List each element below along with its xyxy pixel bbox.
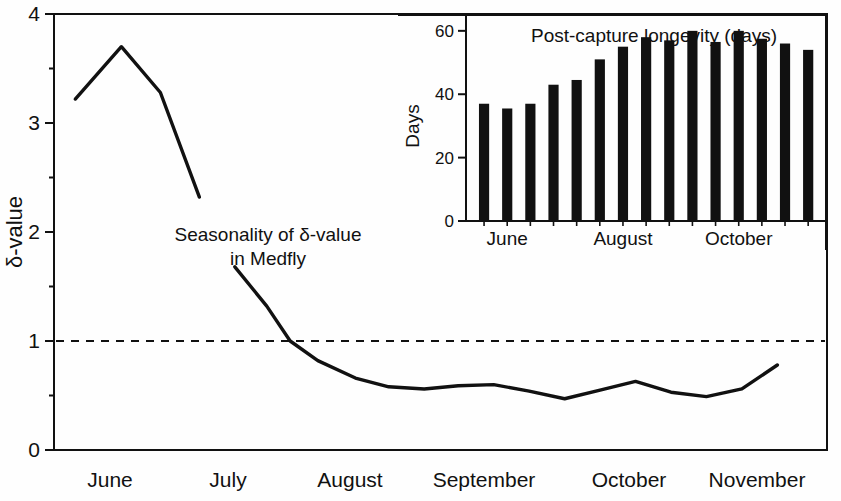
inset-bar	[525, 104, 535, 221]
seasonality-delta-value-figure: 01234δ-valueJuneJulyAugustSeptemberOctob…	[0, 0, 841, 501]
inset-y-tick-label-60: 60	[435, 22, 454, 41]
inset-y-axis-label: Days	[402, 104, 423, 147]
inset-bar	[803, 50, 813, 221]
inset-bar	[618, 47, 628, 221]
inset-x-tick-label-august: August	[593, 228, 653, 249]
main-x-tick-label-october: October	[592, 468, 667, 491]
inset-bar	[687, 31, 697, 221]
inset-x-tick-label-october: October	[705, 228, 773, 249]
main-line-series-1	[235, 267, 778, 399]
main-x-tick-label-september: September	[433, 468, 536, 491]
main-x-tick-label-november: November	[709, 468, 806, 491]
main-y-tick-label-1: 1	[28, 329, 40, 352]
inset-bar	[641, 37, 651, 221]
main-line-series-0	[75, 47, 199, 197]
inset-bar	[595, 59, 605, 221]
main-x-tick-label-august: August	[317, 468, 383, 491]
main-y-tick-label-4: 4	[28, 2, 40, 25]
inset-bar	[502, 108, 512, 221]
main-y-axis-label: δ-value	[2, 196, 27, 268]
main-y-tick-label-2: 2	[28, 220, 40, 243]
inset-bar	[572, 80, 582, 221]
inset-bar	[734, 31, 744, 221]
inset-bar	[780, 44, 790, 221]
inset-bar	[757, 39, 767, 221]
inset-bar	[479, 104, 489, 221]
main-x-tick-label-july: July	[209, 468, 247, 491]
main-annotation-line-2: in Medfly	[230, 248, 307, 269]
main-annotation-line-1: Seasonality of δ-value	[175, 224, 362, 245]
inset-bar	[710, 42, 720, 221]
inset-bar	[548, 85, 558, 221]
inset-x-tick-label-june: June	[487, 228, 528, 249]
inset-y-tick-label-20: 20	[435, 149, 454, 168]
main-y-tick-label-3: 3	[28, 111, 40, 134]
inset-y-tick-label-40: 40	[435, 85, 454, 104]
figure-root: 01234δ-valueJuneJulyAugustSeptemberOctob…	[0, 0, 841, 501]
main-x-tick-label-june: June	[87, 468, 133, 491]
inset-bar	[664, 40, 674, 221]
main-y-tick-label-0: 0	[28, 438, 40, 461]
inset-y-tick-label-0: 0	[445, 212, 454, 231]
